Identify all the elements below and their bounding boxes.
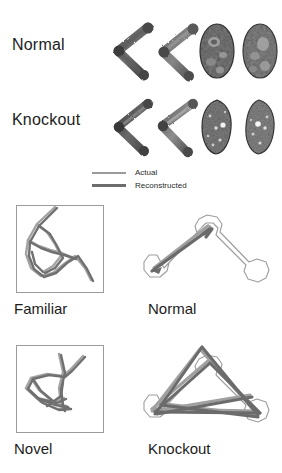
normal-trajectory-reconstructed — [152, 229, 212, 271]
familiar-trace-plot — [17, 206, 103, 292]
tissue-section-photo-normal-2 — [241, 22, 279, 80]
normal-maze-outline — [144, 215, 269, 282]
panel-familiar-box — [16, 205, 104, 293]
chevron-maze-photo-knockout-2 — [152, 100, 204, 156]
panel-normal-maze — [138, 205, 276, 293]
normal-maze-trajectory-plot — [138, 205, 276, 293]
tissue-section-photo-knockout-2 — [241, 98, 279, 156]
panel-novel-box — [16, 345, 104, 433]
tissue-section-photo-normal-1 — [198, 22, 236, 80]
figure-canvas: Normal Knockout — [0, 0, 282, 473]
row-label-knockout: Knockout — [12, 111, 80, 129]
panel-label-normal: Normal — [148, 300, 196, 317]
legend-label-actual: Actual — [135, 168, 157, 178]
panel-label-knockout: Knockout — [148, 440, 211, 457]
legend: Actual Reconstructed — [92, 166, 212, 192]
legend-entry-actual: Actual — [92, 166, 212, 179]
legend-swatch-reconstructed — [92, 184, 126, 187]
novel-trace-plot — [17, 346, 103, 432]
knockout-maze-trajectory-plot — [138, 345, 276, 433]
legend-swatch-actual — [92, 172, 126, 174]
tissue-section-photo-knockout-1 — [198, 98, 236, 156]
panel-knockout-maze — [138, 345, 276, 433]
chevron-maze-photo-normal-2 — [152, 24, 204, 80]
panel-label-familiar: Familiar — [14, 300, 67, 317]
legend-entry-reconstructed: Reconstructed — [92, 179, 212, 192]
legend-label-reconstructed: Reconstructed — [135, 181, 187, 191]
row-label-normal: Normal — [12, 36, 65, 54]
panel-label-novel: Novel — [14, 440, 52, 457]
